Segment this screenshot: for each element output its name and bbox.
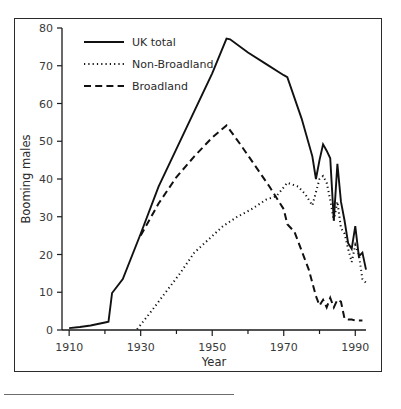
y-axis: 01020304050607080 Booming males bbox=[19, 22, 62, 337]
legend-label: UK total bbox=[132, 36, 176, 49]
x-tick-label: 1970 bbox=[270, 341, 298, 354]
y-tick-label: 60 bbox=[39, 98, 53, 111]
x-axis-title: Year bbox=[201, 355, 227, 369]
x-tick-label: 1990 bbox=[341, 341, 369, 354]
y-axis-title: Booming males bbox=[19, 134, 33, 223]
legend-label: Broadland bbox=[132, 80, 188, 93]
figure-container: 01020304050607080 Booming males 19101930… bbox=[0, 0, 401, 409]
line-chart: 01020304050607080 Booming males 19101930… bbox=[14, 18, 382, 372]
x-tick-marks bbox=[69, 330, 355, 336]
y-tick-label: 10 bbox=[39, 286, 53, 299]
x-tick-label: 1910 bbox=[55, 341, 83, 354]
y-tick-labels: 01020304050607080 bbox=[39, 22, 53, 337]
data-series-group bbox=[69, 39, 366, 330]
x-tick-label: 1950 bbox=[198, 341, 226, 354]
y-tick-label: 30 bbox=[39, 211, 53, 224]
y-tick-label: 50 bbox=[39, 135, 53, 148]
y-tick-label: 70 bbox=[39, 60, 53, 73]
chart-legend: UK totalNon-BroadlandBroadland bbox=[84, 36, 214, 93]
page-divider bbox=[4, 394, 234, 395]
x-tick-labels: 19101930195019701990 bbox=[55, 341, 369, 354]
x-axis: 19101930195019701990 Year bbox=[55, 330, 369, 369]
legend-label: Non-Broadland bbox=[132, 58, 214, 71]
series-line-uk-total bbox=[69, 39, 366, 329]
y-tick-label: 80 bbox=[39, 22, 53, 35]
x-tick-label: 1930 bbox=[127, 341, 155, 354]
y-tick-label: 40 bbox=[39, 173, 53, 186]
y-tick-label: 20 bbox=[39, 249, 53, 262]
y-tick-label: 0 bbox=[46, 324, 53, 337]
y-tick-marks bbox=[57, 28, 62, 330]
